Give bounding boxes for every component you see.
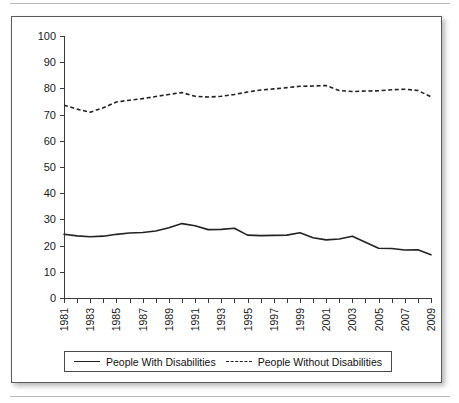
legend-label-without-disabilities: People Without Disabilities: [258, 356, 382, 368]
line-chart: 1009080706050403020100198119831985198719…: [12, 17, 443, 384]
svg-text:40: 40: [44, 187, 56, 199]
svg-text:70: 70: [44, 109, 56, 121]
series-line-solid: [64, 224, 431, 255]
svg-text:1991: 1991: [189, 308, 201, 332]
dashed-line-swatch-icon: [226, 361, 252, 362]
svg-text:2007: 2007: [399, 308, 411, 332]
svg-text:100: 100: [38, 30, 56, 42]
svg-text:2005: 2005: [373, 308, 385, 332]
svg-text:1993: 1993: [215, 308, 227, 332]
chart-legend: People With Disabilities People Without …: [64, 351, 392, 372]
legend-item-without-disabilities: People Without Disabilities: [226, 356, 382, 368]
legend-label-with-disabilities: People With Disabilities: [106, 356, 216, 368]
svg-text:80: 80: [44, 82, 56, 94]
svg-text:30: 30: [44, 213, 56, 225]
svg-text:50: 50: [44, 161, 56, 173]
plot-area: 1009080706050403020100198119831985198719…: [12, 17, 443, 384]
svg-text:1985: 1985: [110, 308, 122, 332]
svg-text:0: 0: [50, 292, 56, 304]
series-line-dashed: [64, 86, 431, 113]
svg-text:90: 90: [44, 56, 56, 68]
svg-text:10: 10: [44, 266, 56, 278]
solid-line-swatch-icon: [74, 361, 100, 362]
top-divider-rule: [10, 3, 450, 4]
bottom-divider-rule: [10, 396, 450, 397]
svg-text:1995: 1995: [242, 308, 254, 332]
svg-text:1983: 1983: [84, 308, 96, 332]
chart-figure-container: 1009080706050403020100198119831985198719…: [11, 16, 442, 383]
svg-text:2009: 2009: [425, 308, 437, 332]
svg-text:1981: 1981: [58, 308, 70, 332]
svg-text:2003: 2003: [346, 308, 358, 332]
svg-text:2001: 2001: [320, 308, 332, 332]
svg-text:1999: 1999: [294, 308, 306, 332]
svg-text:1997: 1997: [268, 308, 280, 332]
legend-item-with-disabilities: People With Disabilities: [74, 356, 216, 368]
svg-text:20: 20: [44, 240, 56, 252]
svg-text:60: 60: [44, 135, 56, 147]
svg-text:1987: 1987: [137, 308, 149, 332]
figure-page: 1009080706050403020100198119831985198719…: [0, 0, 459, 403]
svg-text:1989: 1989: [163, 308, 175, 332]
